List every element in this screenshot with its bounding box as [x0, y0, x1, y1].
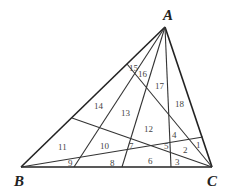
vertex-label-a: A — [162, 7, 173, 23]
region-label-13: 13 — [121, 108, 131, 118]
region-label-2: 2 — [183, 145, 188, 155]
vertex-label-b: B — [13, 173, 24, 189]
region-label-9: 9 — [68, 158, 73, 168]
region-label-7: 7 — [129, 141, 134, 151]
triangle-diagram: A B C 1 2 3 4 5 6 7 8 9 10 11 12 13 14 1… — [0, 0, 231, 194]
region-label-17: 17 — [155, 81, 165, 91]
edge-ac — [165, 27, 212, 167]
region-label-11: 11 — [58, 142, 67, 152]
region-label-5: 5 — [164, 141, 169, 151]
region-label-6: 6 — [148, 156, 153, 166]
cevian-c-lower — [72, 118, 212, 167]
region-label-3: 3 — [175, 157, 180, 167]
region-label-18: 18 — [175, 99, 185, 109]
region-label-16: 16 — [138, 69, 148, 79]
region-label-12: 12 — [144, 124, 153, 134]
region-label-8: 8 — [110, 158, 115, 168]
region-label-4: 4 — [172, 130, 177, 140]
region-label-10: 10 — [100, 141, 110, 151]
vertex-label-c: C — [207, 173, 218, 189]
region-label-1: 1 — [196, 140, 201, 150]
region-label-14: 14 — [94, 101, 104, 111]
